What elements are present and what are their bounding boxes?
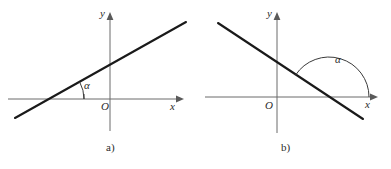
angle-label-a: α <box>84 80 90 91</box>
panel-a-canvas <box>0 0 195 169</box>
panel-caption-b: b) <box>281 142 290 153</box>
angle-label-b: α <box>335 54 341 65</box>
y-axis-arrowhead-a <box>107 12 114 20</box>
x-axis-arrowhead-a <box>176 96 184 103</box>
y-axis-arrowhead-b <box>274 12 281 20</box>
panel-a: x y O α a) <box>0 0 195 169</box>
y-axis-label-b: y <box>267 8 272 19</box>
x-axis-label-b: x <box>365 99 370 110</box>
y-axis-label-a: y <box>100 8 105 19</box>
panel-b-canvas <box>195 0 391 169</box>
panel-b: x y O α b) <box>195 0 391 169</box>
angle-arc-b <box>296 57 370 97</box>
panel-caption-a: a) <box>106 142 115 153</box>
inclined-line-b <box>218 23 363 119</box>
x-axis-arrowhead-b <box>370 94 378 101</box>
figure-root: x y O α a) x y O α b) <box>0 0 391 169</box>
origin-label-a: O <box>101 101 109 112</box>
origin-label-b: O <box>265 100 273 111</box>
x-axis-label-a: x <box>170 101 175 112</box>
